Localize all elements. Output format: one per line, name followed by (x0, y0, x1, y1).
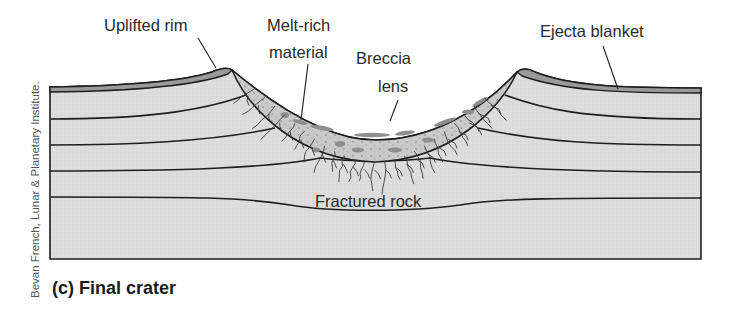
image-credit: Bevan French, Lunar & Planetary Institut… (29, 81, 41, 298)
rock-block (50, 68, 701, 259)
label-melt-rich-2: material (269, 43, 328, 61)
label-uplifted-rim: Uplifted rim (104, 16, 187, 34)
leader-breccia-lens (390, 100, 398, 121)
leader-melt-rich (301, 64, 308, 120)
label-breccia-1: Breccia (356, 49, 412, 67)
crater-diagram: Uplifted rim Melt-rich material Breccia … (0, 0, 731, 310)
leader-uplifted-rim (198, 38, 216, 68)
figure-caption: (c) Final crater (52, 278, 176, 298)
leader-ejecta-blanket (603, 46, 618, 89)
label-melt-rich-1: Melt-rich (267, 16, 330, 34)
label-fractured-rock: Fractured rock (315, 192, 422, 210)
label-ejecta-blanket: Ejecta blanket (540, 22, 644, 40)
label-breccia-2: lens (378, 77, 408, 95)
